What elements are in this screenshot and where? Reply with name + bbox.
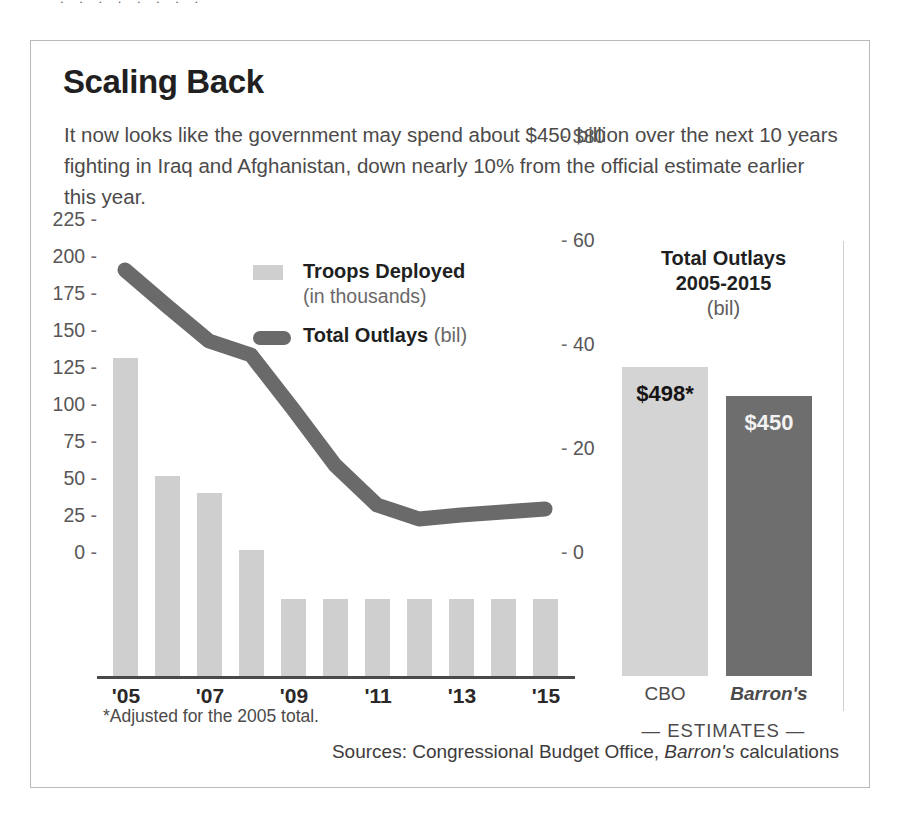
left-axis-tick-50: 50 - <box>63 469 97 489</box>
sources-prefix: Sources: Congressional Budget Office, <box>332 741 664 762</box>
estimates-bar-barrons-value: $450 <box>726 410 812 436</box>
estimates-label-cbo: CBO <box>644 683 685 705</box>
estimates-bar-cbo: $498* <box>622 367 708 676</box>
estimates-bar-barrons: $450 <box>726 396 812 676</box>
page-title: Scaling Back <box>63 63 264 101</box>
figure-subtitle: It now looks like the government may spe… <box>64 119 839 212</box>
legend-sublabel-troops: (in thousands) <box>303 284 513 309</box>
line-swatch-icon <box>253 331 291 345</box>
x-label-09: '09 <box>280 684 308 708</box>
estimates-title-line2: 2005-2015 <box>616 271 831 296</box>
x-label-07: '07 <box>196 684 224 708</box>
left-axis-tick-175: 175 - <box>53 284 97 304</box>
left-axis: 0 - 25 - 50 - 75 - 100 - 125 - 150 - 175… <box>35 256 97 676</box>
estimates-bar-cbo-value: $498* <box>622 381 708 407</box>
left-axis-tick-150: 150 - <box>53 321 97 341</box>
legend-item-outlays: Total Outlays (bil) <box>253 323 513 348</box>
sources-suffix: calculations <box>734 741 839 762</box>
legend-label-troops: Troops Deployed <box>303 259 513 284</box>
sources-publication: Barron's <box>664 741 734 762</box>
footnote-sources: Sources: Congressional Budget Office, Ba… <box>332 741 839 763</box>
x-label-15: '15 <box>532 684 560 708</box>
chart-legend: Troops Deployed (in thousands) Total Out… <box>253 259 513 352</box>
left-axis-tick-75: 75 - <box>63 432 97 452</box>
estimates-note: — ESTIMATES — <box>616 720 831 742</box>
left-axis-tick-25: 25 - <box>63 506 97 526</box>
panel-divider <box>843 241 844 711</box>
x-axis-baseline <box>97 676 575 679</box>
estimates-bar-group: $498* $450 <box>616 364 831 676</box>
estimates-title-line3: (bil) <box>616 296 831 321</box>
x-label-13: '13 <box>448 684 476 708</box>
left-axis-tick-200: 200 - <box>53 247 97 267</box>
estimates-panel: Total Outlays 2005-2015 (bil) $498* $450… <box>616 246 866 716</box>
scan-artifact-sliver: . . . . . . . . <box>60 0 880 6</box>
left-axis-tick-0: 0 - <box>74 543 97 563</box>
estimates-panel-title: Total Outlays 2005-2015 (bil) <box>616 246 831 321</box>
left-axis-tick-125: 125 - <box>53 358 97 378</box>
left-axis-tick-100: 100 - <box>53 395 97 415</box>
estimates-title-line1: Total Outlays <box>616 246 831 271</box>
estimates-axis-labels: CBO Barron's <box>616 683 831 709</box>
x-label-05: '05 <box>112 684 140 708</box>
footnote-adjusted: *Adjusted for the 2005 total. <box>103 706 319 727</box>
figure-frame: Scaling Back It now looks like the gover… <box>30 40 870 788</box>
estimates-label-barrons: Barron's <box>730 683 807 705</box>
x-label-11: '11 <box>364 684 391 708</box>
legend-item-troops: Troops Deployed (in thousands) <box>253 259 513 309</box>
bar-swatch-icon <box>253 265 283 280</box>
left-axis-tick-225: 225 - <box>53 210 97 230</box>
legend-label-outlays: Total Outlays (bil) <box>303 323 513 348</box>
right-axis-tick-80: - $80 <box>561 127 605 147</box>
